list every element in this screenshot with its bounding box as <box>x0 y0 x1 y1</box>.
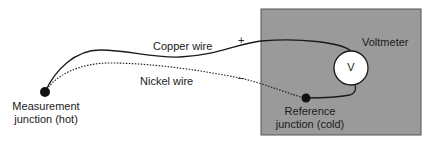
meter-symbol: V <box>344 61 358 74</box>
negative-polarity: – <box>238 71 244 84</box>
reference-junction-line2: junction (cold) <box>270 118 350 131</box>
reference-junction-line1: Reference <box>270 105 350 118</box>
voltmeter-label: Voltmeter <box>362 36 408 49</box>
measurement-junction-label: Measurement junction (hot) <box>0 100 92 126</box>
reference-junction-label: Reference junction (cold) <box>270 105 350 131</box>
measurement-junction-line2: junction (hot) <box>0 113 92 126</box>
positive-polarity: + <box>238 34 244 47</box>
measurement-junction-dot <box>40 87 50 97</box>
copper-wire-label: Copper wire <box>153 40 212 53</box>
nickel-wire-label: Nickel wire <box>140 75 193 88</box>
reference-junction-dot <box>302 94 311 103</box>
measurement-junction-line1: Measurement <box>0 100 92 113</box>
